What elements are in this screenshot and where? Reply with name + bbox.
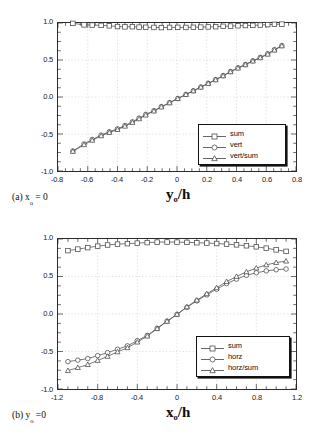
legend-item: sum xyxy=(202,128,281,139)
panel-caption-sub-a: o xyxy=(30,199,33,206)
x-axis-title-main-b: x xyxy=(166,404,174,420)
legend-label: horz/sum xyxy=(228,363,258,372)
x-tick-label: -0.6 xyxy=(71,175,103,184)
x-tick-label: 0.2 xyxy=(191,175,223,184)
legend-label: horz xyxy=(228,352,242,361)
x-tick-label: 0.8 xyxy=(281,175,313,184)
x-tick-label: 0.8 xyxy=(241,393,273,402)
legend-label: vert/sum xyxy=(230,151,258,160)
panel-caption-suffix-a: = 0 xyxy=(33,192,48,202)
legend-item: vert/sum xyxy=(202,150,281,161)
legend-b: sumhorzhorz/sum xyxy=(196,336,290,377)
x-tick-label: -0.4 xyxy=(121,393,153,402)
legend-label: sum xyxy=(230,129,244,138)
x-axis-title-b: xo/h xyxy=(166,404,190,421)
panel-caption-prefix-b: (b) y xyxy=(12,410,30,420)
x-tick-label: 0.6 xyxy=(251,175,283,184)
x-axis-title-a: yo/h xyxy=(166,186,190,203)
x-axis-title-main-a: y xyxy=(166,186,174,202)
legend-marker-triangle-icon xyxy=(202,150,227,161)
x-axis-title-sub-b: o xyxy=(174,412,178,422)
x-tick-label: -0.8 xyxy=(81,393,113,402)
x-tick-label: 1.2 xyxy=(281,393,313,402)
panel-caption-suffix-b: =0 xyxy=(33,410,45,420)
x-tick-label: 0 xyxy=(161,393,193,402)
legend-label: sum xyxy=(228,341,242,350)
x-tick-label: -0.2 xyxy=(131,175,163,184)
x-tick-label: -1.2 xyxy=(41,393,73,402)
x-tick-label: 0.4 xyxy=(221,175,253,184)
x-tick-label: 0.4 xyxy=(201,393,233,402)
panel-caption-b: (b) yo =0 xyxy=(12,410,46,422)
x-axis-title-sub-a: o xyxy=(174,194,178,204)
legend-label: vert xyxy=(230,140,242,149)
legend-marker-circle-icon xyxy=(202,139,227,150)
legend-marker-triangle-icon xyxy=(200,362,225,373)
legend-marker-square-icon xyxy=(200,340,225,351)
x-axis-ticks-b: -1.2-0.8-0.400.40.81.2 xyxy=(0,218,316,437)
x-axis-ticks-a: -0.8-0.6-0.4-0.200.20.40.60.8 xyxy=(0,0,316,218)
x-axis-title-tail-b: /h xyxy=(178,404,191,420)
legend-item: horz xyxy=(200,351,285,362)
panel-caption-sub-b: o xyxy=(30,417,33,424)
legend-item: sum xyxy=(200,340,285,351)
x-tick-label: -0.8 xyxy=(41,175,73,184)
figure-panel-b: 1.00.50.0-0.5-1.0 -1.2-0.8-0.400.40.81.2… xyxy=(0,218,316,437)
panel-caption-prefix-a: (a) x xyxy=(12,192,30,202)
legend-marker-circle-icon xyxy=(200,351,225,362)
legend-item: vert xyxy=(202,139,281,150)
legend-a: sumvertvert/sum xyxy=(198,124,286,165)
panel-caption-a: (a) xo = 0 xyxy=(12,192,48,204)
x-tick-label: -0.4 xyxy=(101,175,133,184)
legend-item: horz/sum xyxy=(200,362,285,373)
x-axis-title-tail-a: /h xyxy=(178,186,191,202)
figure-panel-a: 1.00.50.0-0.5-1.0 -0.8-0.6-0.4-0.200.20.… xyxy=(0,0,316,218)
x-tick-label: 0 xyxy=(161,175,193,184)
legend-marker-square-icon xyxy=(202,128,227,139)
